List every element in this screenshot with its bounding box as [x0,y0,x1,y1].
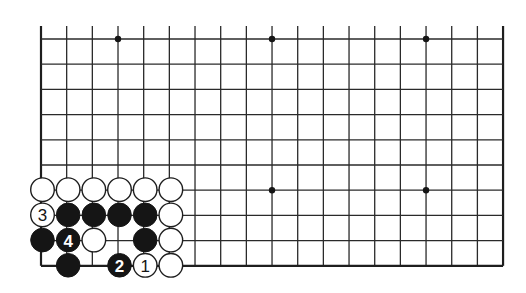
black-stone: 2 [108,253,132,277]
white-stone [82,228,106,252]
star-point [269,187,275,193]
white-stone [133,178,157,202]
white-stone [159,228,183,252]
go-board-diagram: 3421 [0,0,526,293]
board-grid [41,26,503,266]
white-stone: 1 [133,253,157,277]
white-stone [56,178,80,202]
move-number-label: 4 [63,232,73,251]
black-stone [56,203,80,227]
black-stone [133,228,157,252]
star-point [269,36,275,42]
move-number-label: 2 [115,257,124,276]
stones-layer: 3421 [31,178,183,277]
white-stone [31,178,55,202]
move-number-label: 3 [38,206,47,225]
white-stone: 3 [31,203,55,227]
black-stone [31,228,55,252]
black-stone [82,203,106,227]
black-stone [108,203,132,227]
white-stone [82,178,106,202]
star-point [115,36,121,42]
black-stone [133,203,157,227]
black-stone: 4 [56,228,80,252]
white-stone [159,178,183,202]
star-point [423,36,429,42]
black-stone [56,253,80,277]
move-number-label: 1 [140,257,149,276]
star-point [423,187,429,193]
white-stone [159,253,183,277]
white-stone [159,203,183,227]
white-stone [108,178,132,202]
